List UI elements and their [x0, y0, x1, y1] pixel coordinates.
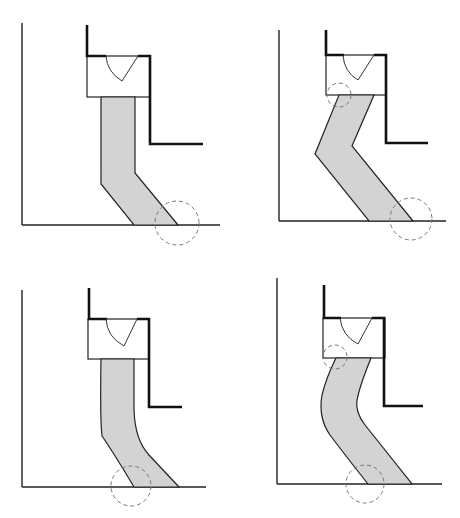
- hopper-box: [87, 56, 150, 97]
- flow-band: [321, 358, 412, 484]
- hopper-box: [88, 319, 149, 359]
- panel-top-right: [230, 0, 460, 259]
- panel-bottom-left: [0, 260, 230, 518]
- flow-band: [101, 359, 179, 487]
- hopper-box: [326, 55, 386, 95]
- left-wall: [326, 30, 344, 55]
- panel-top-left: [0, 0, 230, 259]
- left-wall: [89, 288, 107, 319]
- left-wall: [324, 285, 341, 318]
- left-wall: [87, 25, 106, 56]
- flow-band: [101, 97, 178, 225]
- hopper-box: [323, 318, 385, 358]
- panel-bottom-right: [230, 260, 460, 518]
